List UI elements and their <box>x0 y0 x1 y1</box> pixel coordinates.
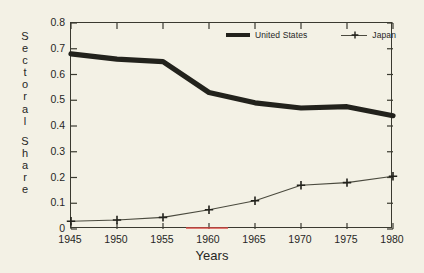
y-axis-tick-label: 0.5 <box>37 94 65 104</box>
legend-label-united-states: United States <box>255 30 307 40</box>
y-axis-title-letter: c <box>22 54 28 66</box>
legend-line-swatch-icon <box>226 33 250 38</box>
y-axis-title-letter: r <box>23 171 27 183</box>
y-axis-tick-label: 0.3 <box>37 146 65 156</box>
legend-label-japan: Japan <box>372 30 396 40</box>
chart-canvas: S e c t o r a l S h a r e 00.10.20.30.40… <box>0 0 424 273</box>
scan-artifact-red-mark <box>186 227 228 229</box>
x-axis-tick-label: 1980 <box>372 234 412 244</box>
y-axis-title-letter: S <box>21 135 28 147</box>
y-axis-tick-label: 0.2 <box>37 172 65 182</box>
y-axis-title-letter: e <box>22 183 28 195</box>
x-axis-tick-label: 1950 <box>96 234 136 244</box>
x-axis-title: Years <box>0 248 424 263</box>
x-axis-tick-label: 1975 <box>326 234 366 244</box>
y-axis-title: S e c t o r a l S h a r e <box>14 30 36 195</box>
y-axis-tick-label: 0.4 <box>37 120 65 130</box>
y-axis-tick-label: 0.8 <box>37 17 65 27</box>
plot-area <box>71 23 393 229</box>
y-axis-title-letter: o <box>22 78 28 90</box>
y-axis-tick-label: 0.1 <box>37 197 65 207</box>
y-axis-tick-label: 0 <box>37 223 65 233</box>
x-axis-tick-label: 1960 <box>188 234 228 244</box>
y-axis-title-letter: t <box>23 66 26 78</box>
x-axis-tick-label: 1970 <box>280 234 320 244</box>
x-axis-tick-label: 1945 <box>50 234 90 244</box>
legend-item-united-states: United States <box>226 30 307 40</box>
y-axis-tick-label: 0.7 <box>37 43 65 53</box>
legend-item-japan: Japan <box>341 30 396 40</box>
y-axis-title-letter: r <box>23 90 27 102</box>
y-axis-tick-label: 0.6 <box>37 69 65 79</box>
x-axis-tick-label: 1965 <box>234 234 274 244</box>
plot-frame <box>70 22 392 228</box>
y-axis-title-letter: a <box>22 103 28 115</box>
legend-plus-marker-icon <box>341 31 367 40</box>
y-axis-title-letter: S <box>21 30 28 42</box>
chart-legend: United States Japan <box>226 30 396 40</box>
y-axis-title-letter: l <box>24 115 26 127</box>
y-axis-title-letter: a <box>22 159 28 171</box>
y-axis-title-letter: h <box>22 147 28 159</box>
x-axis-tick-label: 1955 <box>142 234 182 244</box>
y-axis-title-letter: e <box>22 42 28 54</box>
